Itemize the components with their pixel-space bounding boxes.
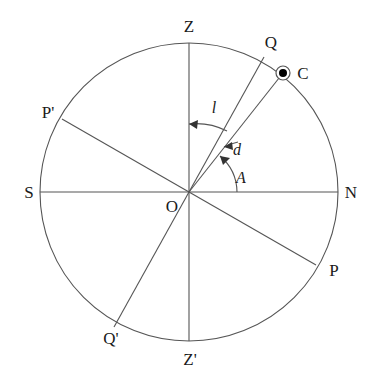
point-label-q: Q [265, 34, 277, 51]
point-label-o: O [166, 198, 178, 215]
celestial-object-marker-dot [279, 69, 287, 77]
angle-label-a: A [236, 170, 246, 186]
diagram-canvas [0, 0, 373, 388]
angle-arc-l-arrowhead [189, 120, 198, 129]
point-label-p-prime: P' [42, 104, 55, 121]
point-label-n: N [345, 184, 357, 201]
point-label-z-prime: Z' [183, 351, 196, 368]
point-label-c: C [297, 65, 308, 82]
point-label-z: Z [184, 18, 194, 35]
angle-label-d: d [233, 142, 241, 158]
angle-arc-a-arrowhead [220, 156, 230, 165]
point-label-p: P [329, 262, 338, 279]
angle-label-l: l [212, 100, 216, 116]
point-label-q-prime: Q' [103, 330, 118, 347]
celestial-sphere-diagram: Z Q C P' S O N P Q' Z' l d A [0, 0, 373, 388]
point-label-s: S [24, 184, 33, 201]
